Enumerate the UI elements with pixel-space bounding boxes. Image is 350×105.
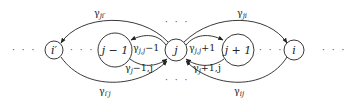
node-label-i-prime: i′ <box>51 44 58 57</box>
ellipsis-between-i-prime-j-minus-1: · · · <box>70 45 94 55</box>
edge-label-gamma-j-minus-1-j: γj−1,j <box>125 62 153 75</box>
node-label-j-plus-1: j + 1 <box>222 44 252 57</box>
edge-label-gamma-j-j-minus-1: γj,j−1 <box>133 42 159 55</box>
edge-label-gamma-ji-prime: γji′ <box>94 7 106 20</box>
ellipsis-left: · · · <box>12 45 36 55</box>
node-label-j-minus-1: j − 1 <box>99 44 129 57</box>
ellipsis-below-j: · · · <box>165 75 189 85</box>
transition-diagram: i′ j − 1 j j + 1 i · · · · · · · · · · ·… <box>0 0 350 105</box>
ellipsis-above-j: · · · <box>165 17 189 27</box>
edge-label-gamma-i-prime-j: γi′j <box>99 85 112 98</box>
edge-label-gamma-j-j-plus-1: γj,j+1 <box>189 42 215 55</box>
ellipsis-right: · · · <box>322 45 346 55</box>
ellipsis-between-j-plus-1-i: · · · <box>259 45 283 55</box>
node-label-i: i <box>292 44 296 57</box>
edge-label-gamma-ji: γji <box>237 7 247 20</box>
edge-label-gamma-j-plus-1-j: γj+1,j <box>193 62 221 75</box>
edge-label-gamma-ij: γij <box>234 85 245 98</box>
diagram-svg: i′ j − 1 j j + 1 i · · · · · · · · · · ·… <box>0 0 350 105</box>
